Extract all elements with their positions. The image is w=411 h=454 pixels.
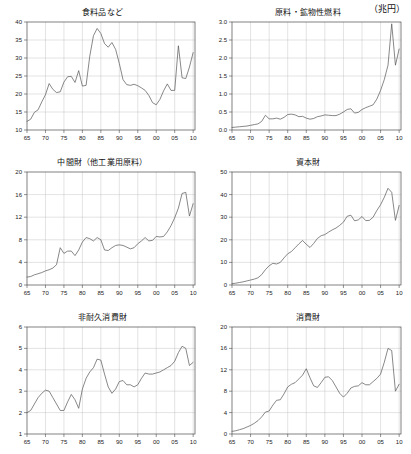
y-axis-tick-label: 4	[19, 259, 23, 265]
y-axis-tick-label: 8	[19, 237, 23, 243]
x-axis-tick-label: 05	[171, 135, 178, 141]
y-axis-tick-label: 16	[220, 345, 227, 351]
x-axis-tick-label: 85	[98, 135, 105, 141]
data-series-line	[232, 188, 399, 283]
y-axis-tick-label: 4	[224, 410, 228, 416]
y-axis-tick-label: 1.5	[219, 73, 228, 79]
y-axis-tick-label: 8	[224, 388, 228, 394]
data-series-line	[27, 28, 193, 121]
x-axis-tick-label: 75	[61, 439, 68, 445]
y-axis-tick-label: 0	[224, 282, 228, 288]
x-axis-tick-label: 85	[303, 290, 310, 296]
x-axis-tick-label: 80	[79, 290, 86, 296]
y-axis-tick-label: 30	[220, 214, 227, 220]
plot-intermediate-goods: 04812162065707580859095000510	[0, 150, 205, 305]
x-axis-tick-label: 95	[134, 439, 141, 445]
y-axis-tick-label: 0.0	[219, 127, 228, 133]
x-axis-tick-label: 80	[284, 290, 291, 296]
plot-raw-materials-fuel: 0.00.51.01.52.02.53.06570758085909500051…	[205, 0, 411, 150]
y-axis-tick-label: 0.5	[219, 109, 228, 115]
y-axis-tick-label: 0	[19, 282, 23, 288]
x-axis-tick-label: 70	[247, 135, 254, 141]
x-axis-tick-label: 10	[190, 135, 197, 141]
x-axis-tick-label: 95	[340, 439, 347, 445]
x-axis-tick-label: 65	[24, 439, 31, 445]
x-axis-tick-label: 95	[134, 135, 141, 141]
y-axis-tick-label: 2.5	[219, 37, 228, 43]
y-axis-tick-label: 5	[19, 345, 23, 351]
plot-food: 1015202530354065707580859095000510	[0, 0, 205, 150]
y-axis-tick-label: 12	[15, 214, 22, 220]
panel-food: 食料品など 1015202530354065707580859095000510	[0, 0, 205, 150]
y-axis-tick-label: 50	[220, 169, 227, 175]
y-axis-tick-label: 12	[220, 367, 227, 373]
data-series-line	[27, 346, 193, 412]
plot-frame	[27, 327, 195, 434]
x-axis-tick-label: 00	[359, 290, 366, 296]
x-axis-tick-label: 90	[322, 135, 329, 141]
x-axis-tick-label: 00	[153, 439, 160, 445]
plot-nondurable-consumer-goods: 12345665707580859095000510	[0, 305, 205, 454]
x-axis-tick-label: 90	[116, 290, 123, 296]
plot-capital-goods: 0102030405065707580859095000510	[205, 150, 411, 305]
x-axis-tick-label: 85	[98, 290, 105, 296]
plot-frame	[232, 172, 401, 285]
x-axis-tick-label: 05	[171, 439, 178, 445]
panel-raw-materials-fuel: （兆円） 原料・鉱物性燃料 0.00.51.01.52.02.53.065707…	[205, 0, 411, 150]
x-axis-tick-label: 95	[134, 290, 141, 296]
panel-nondurable-consumer-goods: 非耐久消費財 12345665707580859095000510	[0, 305, 205, 454]
y-axis-tick-label: 20	[15, 91, 22, 97]
x-axis-tick-label: 80	[79, 135, 86, 141]
y-axis-tick-label: 2	[19, 410, 23, 416]
x-axis-tick-label: 75	[61, 290, 68, 296]
x-axis-tick-label: 85	[303, 135, 310, 141]
x-axis-tick-label: 10	[190, 290, 197, 296]
y-axis-tick-label: 30	[15, 55, 22, 61]
x-axis-tick-label: 05	[377, 135, 384, 141]
x-axis-tick-label: 70	[247, 290, 254, 296]
x-axis-tick-label: 00	[359, 439, 366, 445]
y-axis-tick-label: 10	[220, 259, 227, 265]
x-axis-tick-label: 90	[322, 290, 329, 296]
y-axis-tick-label: 1.0	[219, 91, 228, 97]
y-axis-tick-label: 10	[15, 127, 22, 133]
y-axis-tick-label: 6	[19, 324, 23, 330]
x-axis-tick-label: 70	[42, 439, 49, 445]
x-axis-tick-label: 65	[229, 135, 236, 141]
figure-panel-grid: 食料品など 1015202530354065707580859095000510…	[0, 0, 411, 454]
x-axis-tick-label: 65	[229, 439, 236, 445]
x-axis-tick-label: 10	[190, 439, 197, 445]
x-axis-tick-label: 70	[247, 439, 254, 445]
y-axis-tick-label: 35	[15, 37, 22, 43]
x-axis-tick-label: 80	[284, 439, 291, 445]
x-axis-tick-label: 80	[79, 439, 86, 445]
y-axis-tick-label: 2.0	[219, 55, 228, 61]
x-axis-tick-label: 75	[266, 290, 273, 296]
plot-consumer-goods: 04812162065707580859095000510	[205, 305, 411, 454]
x-axis-tick-label: 85	[303, 439, 310, 445]
x-axis-tick-label: 65	[229, 290, 236, 296]
y-axis-tick-label: 16	[15, 192, 22, 198]
y-axis-tick-label: 4	[19, 367, 23, 373]
y-axis-tick-label: 25	[15, 73, 22, 79]
x-axis-tick-label: 00	[359, 135, 366, 141]
x-axis-tick-label: 95	[340, 135, 347, 141]
x-axis-tick-label: 05	[171, 290, 178, 296]
y-axis-tick-label: 3	[19, 388, 23, 394]
x-axis-tick-label: 90	[116, 135, 123, 141]
x-axis-tick-label: 00	[153, 135, 160, 141]
y-axis-tick-label: 20	[220, 324, 227, 330]
x-axis-tick-label: 90	[322, 439, 329, 445]
y-axis-tick-label: 40	[220, 192, 227, 198]
x-axis-tick-label: 65	[24, 290, 31, 296]
y-axis-tick-label: 1	[19, 431, 23, 437]
x-axis-tick-label: 75	[266, 439, 273, 445]
x-axis-tick-label: 70	[42, 135, 49, 141]
panel-consumer-goods: 消費財 04812162065707580859095000510	[205, 305, 411, 454]
y-axis-tick-label: 3.0	[219, 19, 228, 25]
y-axis-tick-label: 0	[224, 431, 228, 437]
x-axis-tick-label: 95	[340, 290, 347, 296]
x-axis-tick-label: 80	[284, 135, 291, 141]
data-series-line	[27, 192, 193, 277]
x-axis-tick-label: 75	[61, 135, 68, 141]
